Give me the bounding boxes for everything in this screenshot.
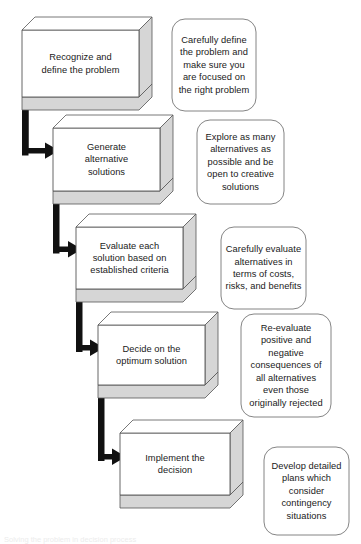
callout-shape-4 [241,314,331,417]
process-box-step-1[interactable] [22,17,152,110]
flowchart-graphics [0,0,361,544]
callout-shape-5 [264,447,349,535]
callout-shape-1 [172,19,256,111]
callout-shape-2 [197,120,284,204]
process-box-step-4[interactable] [98,312,218,398]
flowchart-canvas: Recognize and define the problem Generat… [0,0,361,544]
process-box-step-3[interactable] [76,214,196,302]
callout-shape-3 [221,227,306,309]
process-box-step-5[interactable] [120,420,243,508]
process-box-step-2[interactable] [53,115,173,204]
footer-clipped-caption: Solving the problem in decision process [4,535,154,544]
